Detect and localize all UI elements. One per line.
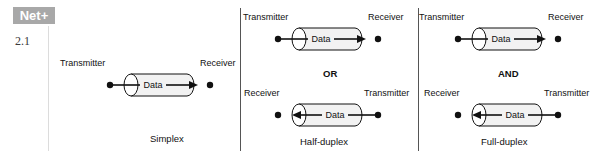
halfduplex-row1-right-label: Receiver <box>368 12 404 22</box>
halfduplex-conjunction: OR <box>323 68 337 79</box>
fullduplex-pipe-graphic-1: Data <box>452 24 564 52</box>
halfduplex-row-1: Data Transmitter Receiver <box>272 24 384 52</box>
receiver-node <box>275 112 281 118</box>
halfduplex-pipe-graphic-1: Data <box>272 24 384 52</box>
halfduplex-row1-left-label: Transmitter <box>243 12 288 22</box>
simplex-caption: Simplex <box>150 133 184 144</box>
receiver-node <box>555 36 561 42</box>
simplex-pipe-graphic: Data <box>104 70 216 98</box>
halfduplex-caption: Half-duplex <box>300 136 348 147</box>
objective-number: 2.1 <box>15 34 30 49</box>
fullduplex-row1-left-label: Transmitter <box>419 12 464 22</box>
fullduplex-row-1: Data Transmitter Receiver <box>452 24 564 52</box>
fullduplex-row1-right-label: Receiver <box>548 12 584 22</box>
simplex-right-label: Receiver <box>200 58 236 68</box>
margin-rule <box>48 26 49 151</box>
fullduplex-pipe-graphic-2: Data <box>452 100 564 128</box>
pipe-label: Data <box>491 34 510 44</box>
panel-divider-2 <box>418 8 419 151</box>
receiver-node <box>455 112 461 118</box>
pipe-label: Data <box>143 80 162 90</box>
halfduplex-pipe-graphic-2: Data <box>272 100 384 128</box>
panel-divider-1 <box>240 8 241 151</box>
receiver-node <box>375 36 381 42</box>
pipe-label: Data <box>325 110 344 120</box>
halfduplex-row-2: Data Receiver Transmitter <box>272 100 384 128</box>
fullduplex-row2-left-label: Receiver <box>424 88 460 98</box>
halfduplex-row2-left-label: Receiver <box>244 88 280 98</box>
pipe-label: Data <box>311 34 330 44</box>
fullduplex-caption: Full-duplex <box>481 136 527 147</box>
fullduplex-row2-right-label: Transmitter <box>544 88 589 98</box>
netplus-badge: Net+ <box>13 7 55 24</box>
pipe-label: Data <box>505 110 524 120</box>
halfduplex-row2-right-label: Transmitter <box>364 88 409 98</box>
fullduplex-row-2: Data Receiver Transmitter <box>452 100 564 128</box>
receiver-node <box>207 82 213 88</box>
simplex-diagram-row: Data Transmitter Receiver <box>104 70 216 98</box>
simplex-left-label: Transmitter <box>60 58 105 68</box>
fullduplex-conjunction: AND <box>498 68 519 79</box>
figure-canvas: Net+ 2.1 Data Transmitter Receiver Simpl… <box>0 0 605 151</box>
